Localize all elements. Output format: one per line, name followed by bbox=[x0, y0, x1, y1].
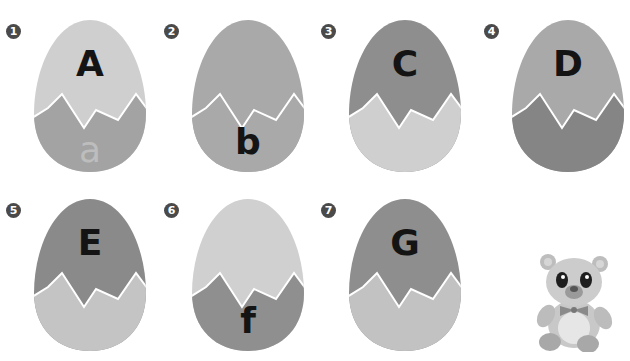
number-badge: 2 bbox=[164, 24, 179, 39]
egg-letter: E bbox=[32, 223, 148, 263]
egg-letter: f bbox=[190, 301, 306, 341]
number-badge: 3 bbox=[321, 24, 336, 39]
egg-shape-icon bbox=[32, 197, 148, 353]
egg-letter: C bbox=[347, 44, 463, 84]
number-badge: 7 bbox=[321, 203, 336, 218]
egg-3: 3C bbox=[347, 18, 463, 174]
egg-letter: G bbox=[347, 223, 463, 263]
egg-shape-icon bbox=[510, 18, 626, 174]
egg-2: 2b bbox=[190, 18, 306, 174]
number-badge: 4 bbox=[484, 24, 499, 39]
egg-shape-icon bbox=[347, 18, 463, 174]
egg-4: 4D bbox=[510, 18, 626, 174]
egg-5: 5E bbox=[32, 197, 148, 353]
egg-6: 6f bbox=[190, 197, 306, 353]
egg-1: 1Aa bbox=[32, 18, 148, 174]
number-badge: 6 bbox=[164, 203, 179, 218]
teddy-bear-icon bbox=[530, 252, 618, 352]
egg-shape-icon bbox=[347, 197, 463, 353]
number-badge: 5 bbox=[6, 203, 21, 218]
number-badge: 1 bbox=[6, 24, 21, 39]
egg-letter: b bbox=[190, 122, 306, 162]
egg-7: 7G bbox=[347, 197, 463, 353]
egg-lowercase-letter: a bbox=[32, 130, 148, 170]
egg-letter: A bbox=[32, 44, 148, 84]
egg-letter: D bbox=[510, 44, 626, 84]
